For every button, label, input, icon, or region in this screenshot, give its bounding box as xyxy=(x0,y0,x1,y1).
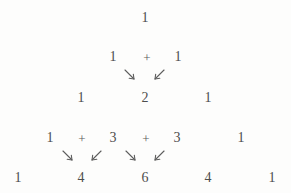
pascal-cell-r2-c2: 2 xyxy=(141,91,148,105)
pascal-cell-r1-left: 1 xyxy=(109,50,116,64)
pascal-cell-r0-c2: 1 xyxy=(141,11,148,25)
pascal-cell-r4-c1: 4 xyxy=(77,171,84,185)
pascal-cell-r4-c4: 1 xyxy=(268,171,275,185)
pascal-cell-r4-c2: 6 xyxy=(141,171,148,185)
arrow-down-right-icon xyxy=(123,148,139,164)
arrow-down-right-icon xyxy=(60,148,76,164)
pascal-triangle-diagram: 1 1 + 1 1 2 1 1 + 3 + 3 1 xyxy=(0,0,291,193)
pascal-cell-r1-right: 1 xyxy=(174,50,181,64)
pascal-cell-r3-c3: 1 xyxy=(237,131,244,145)
pascal-cell-r2-c3: 1 xyxy=(204,91,211,105)
pascal-cell-r2-c1: 1 xyxy=(77,91,84,105)
plus-operator-r3-first: + xyxy=(78,132,85,145)
arrow-down-left-icon xyxy=(88,148,104,164)
pascal-cell-r3-c0: 1 xyxy=(46,131,53,145)
pascal-cell-r3-c1: 3 xyxy=(109,131,116,145)
plus-operator-r1: + xyxy=(143,51,150,64)
pascal-cell-r3-c2: 3 xyxy=(173,131,180,145)
arrow-down-left-icon xyxy=(151,67,167,83)
arrow-down-right-icon xyxy=(122,67,138,83)
plus-operator-r3-second: + xyxy=(142,132,149,145)
arrow-down-left-icon xyxy=(151,148,167,164)
pascal-cell-r4-c0: 1 xyxy=(14,171,21,185)
pascal-cell-r4-c3: 4 xyxy=(204,171,211,185)
